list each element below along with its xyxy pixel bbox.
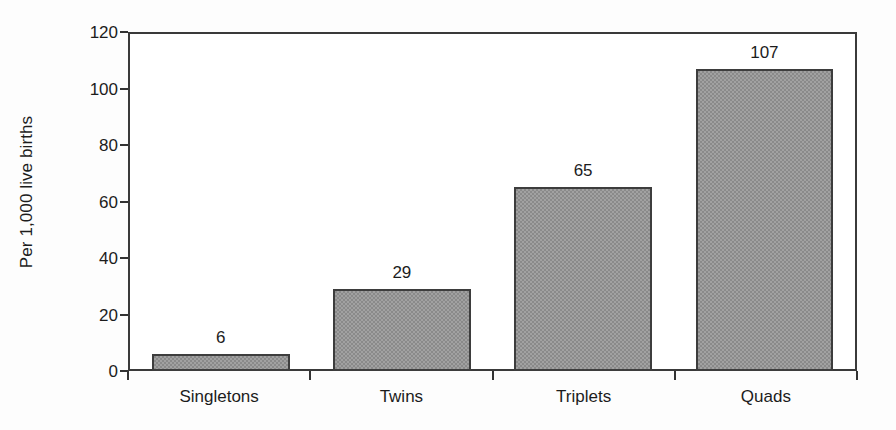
y-axis-tick-label: 100 bbox=[74, 80, 118, 97]
bar[interactable] bbox=[152, 354, 290, 371]
y-axis-tick-mark bbox=[120, 257, 128, 259]
y-axis-tick-label: 0 bbox=[74, 363, 118, 380]
bar-slot: 107 bbox=[674, 34, 855, 371]
x-axis-category-label: Twins bbox=[310, 388, 492, 405]
bar[interactable] bbox=[333, 289, 471, 371]
x-axis-tick-labels: SingletonsTwinsTripletsQuads bbox=[128, 388, 857, 414]
x-axis-tick-mark bbox=[127, 371, 129, 380]
x-axis-tick-mark bbox=[309, 371, 311, 380]
x-axis-tick-mark bbox=[674, 371, 676, 380]
bar-slot: 65 bbox=[493, 34, 674, 371]
y-axis-tick-mark bbox=[120, 144, 128, 146]
x-axis-category-label: Quads bbox=[675, 388, 857, 405]
y-axis-title: Per 1,000 live births bbox=[14, 23, 40, 362]
y-axis-tick-label: 120 bbox=[74, 24, 118, 41]
x-axis-tick-mark bbox=[492, 371, 494, 380]
bar-value-label: 65 bbox=[493, 162, 674, 179]
y-axis-tick-label: 80 bbox=[74, 137, 118, 154]
y-axis-tick-label: 60 bbox=[74, 193, 118, 210]
y-axis-tick-labels: 020406080100120 bbox=[70, 0, 118, 430]
x-axis-category-label: Singletons bbox=[128, 388, 310, 405]
bar[interactable] bbox=[514, 187, 652, 371]
bar-value-label: 6 bbox=[130, 329, 311, 346]
bar-value-label: 107 bbox=[674, 44, 855, 61]
bar-slot: 29 bbox=[311, 34, 492, 371]
bar-slot: 6 bbox=[130, 34, 311, 371]
bar-value-label: 29 bbox=[311, 264, 492, 281]
y-axis-tick-mark bbox=[120, 31, 128, 33]
bar[interactable] bbox=[696, 69, 834, 371]
y-axis-tick-mark bbox=[120, 88, 128, 90]
y-axis-tick-mark bbox=[120, 201, 128, 203]
bar-chart-figure: Per 1,000 live births 020406080100120 62… bbox=[0, 0, 896, 430]
bars-layer: 62965107 bbox=[130, 34, 855, 371]
y-axis-tick-label: 20 bbox=[74, 306, 118, 323]
y-axis-tick-label: 40 bbox=[74, 250, 118, 267]
x-axis-tick-mark bbox=[856, 371, 858, 380]
y-axis-tick-mark bbox=[120, 314, 128, 316]
x-axis-category-label: Triplets bbox=[493, 388, 675, 405]
